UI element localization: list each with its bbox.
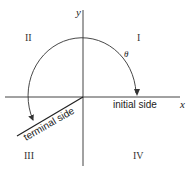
quadrant-iv-label: IV: [133, 150, 144, 161]
initial-arrowhead: [134, 89, 140, 96]
y-axis-label: y: [75, 6, 81, 18]
quadrant-ii-label: II: [25, 32, 32, 43]
quadrant-iii-label: III: [24, 150, 34, 161]
initial-side-label: initial side: [113, 99, 157, 110]
quadrant-i-label: I: [137, 32, 140, 43]
angle-diagram: y x II I III IV θ initial side terminal …: [0, 0, 196, 170]
theta-label: θ: [124, 49, 129, 59]
x-axis-label: x: [179, 98, 185, 110]
